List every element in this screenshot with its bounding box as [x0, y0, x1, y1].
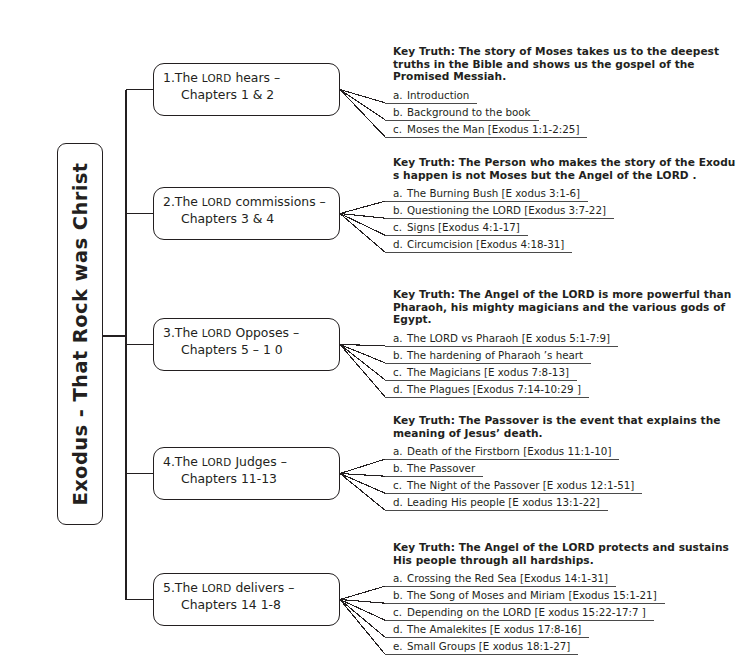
sub-item-text: The Song of Moses and Miriam [Exodus 15:… [407, 589, 657, 601]
sub-item-letter: b. [393, 106, 407, 118]
sub-item-text: Circumcision [Exodus 4:18-31] [407, 238, 564, 250]
fan-connector [340, 201, 385, 213]
sub-item[interactable]: b.Background to the book [393, 106, 739, 123]
section-node-1-line2: Chapters 1 & 2 [163, 87, 339, 104]
fan-connector [340, 345, 385, 380]
sub-item-letter: c. [393, 479, 407, 491]
sub-item-text: Small Groups [E xodus 18:1-27] [407, 640, 570, 652]
section-node-3-line1: 3.The LORD Opposes – [163, 325, 339, 342]
sub-item[interactable]: c.The Magicians [E xodus 7:8-13] [393, 366, 739, 383]
sub-item-text: Leading His people [E xodus 13:1-22] [407, 496, 600, 508]
sub-item-underline [385, 346, 618, 347]
sub-item[interactable]: a.The LORD vs Pharaoh [E xodus 5:1-7:9] [393, 332, 739, 349]
sub-item-underline [385, 235, 528, 236]
fan-connector [340, 474, 385, 511]
lord-smallcaps-3: LORD [202, 327, 232, 339]
sub-item[interactable]: c.Signs [Exodus 4:1-17] [393, 221, 739, 238]
section-number-1: 1. [163, 70, 175, 85]
sub-item[interactable]: d.Circumcision [Exodus 4:18-31] [393, 238, 739, 255]
sub-item-list-3: a.The LORD vs Pharaoh [E xodus 5:1-7:9]b… [393, 332, 739, 400]
fan-connector [340, 474, 385, 494]
sub-item[interactable]: c.Moses the Man [Exodus 1:1-2:25] [393, 123, 739, 140]
section-node-1[interactable]: 1.The LORD hears – Chapters 1 & 2 [153, 63, 340, 116]
sub-item-letter: a. [393, 187, 407, 199]
lord-smallcaps-2: LORD [202, 196, 232, 208]
sub-item[interactable]: a.Introduction [393, 89, 739, 106]
fan-connector [340, 474, 385, 477]
key-truth-2: Key Truth: The Person who makes the stor… [393, 156, 739, 181]
section-node-5-line1: 5.The LORD delivers – [163, 580, 339, 597]
sub-item-letter: d. [393, 238, 407, 250]
content-block-2: Key Truth: The Person who makes the stor… [393, 156, 739, 255]
sub-item-underline [385, 380, 577, 381]
sub-item-text: The Magicians [E xodus 7:8-13] [407, 366, 569, 378]
sub-item[interactable]: b.Questioning the LORD [Exodus 3:7-22] [393, 204, 739, 221]
sub-item[interactable]: b.The hardening of Pharaoh ’s heart [393, 349, 739, 366]
sub-item-underline [385, 654, 578, 655]
sub-item-list-2: a.The Burning Bush [E xodus 3:1-6]b.Ques… [393, 187, 739, 255]
sub-item-letter: e. [393, 640, 407, 652]
section-node-5[interactable]: 5.The LORD delivers – Chapters 14 1-8 [153, 573, 340, 626]
sub-item-letter: b. [393, 462, 407, 474]
sub-item-letter: c. [393, 366, 407, 378]
sub-item[interactable]: a.Crossing the Red Sea [Exodus 14:1-31] [393, 572, 739, 589]
fan-connector [340, 345, 385, 363]
section-node-3[interactable]: 3.The LORD Opposes – Chapters 5 – 1 0 [153, 318, 340, 371]
sub-item-underline [385, 459, 619, 460]
sub-item-letter: a. [393, 332, 407, 344]
section-node-5-line2: Chapters 14 1-8 [163, 597, 339, 614]
sub-item-text: Death of the Firstborn [Exodus 11:1-10] [407, 445, 611, 457]
fan-connector [340, 90, 385, 120]
section-node-3-line2: Chapters 5 – 1 0 [163, 342, 339, 359]
sub-item-list-4: a.Death of the Firstborn [Exodus 11:1-10… [393, 445, 739, 513]
section-title-pre-3: The [175, 325, 202, 340]
sub-item-underline [385, 103, 477, 104]
sub-item-letter: a. [393, 89, 407, 101]
section-title-pre-1: The [175, 70, 202, 85]
sub-item[interactable]: c.The Night of the Passover [E xodus 12:… [393, 479, 739, 496]
root-node-label: Exodus - That Rock was Christ [69, 162, 92, 505]
sub-item[interactable]: d.Leading His people [E xodus 13:1-22] [393, 496, 739, 513]
sub-item[interactable]: a.Death of the Firstborn [Exodus 11:1-10… [393, 445, 739, 462]
sub-item[interactable]: b.The Passover [393, 462, 739, 479]
fan-connector [340, 214, 385, 236]
sub-item-underline [385, 397, 589, 398]
sub-item[interactable]: d.The Plagues [Exodus 7:14-10:29 ] [393, 383, 739, 400]
section-node-2[interactable]: 2.The LORD commissions – Chapters 3 & 4 [153, 187, 340, 240]
sub-item-text: The Night of the Passover [E xodus 12:1-… [407, 479, 634, 491]
sub-item-underline [385, 252, 572, 253]
section-title-pre-4: The [175, 454, 202, 469]
section-node-4-line1: 4.The LORD Judges – [163, 454, 339, 471]
section-node-4[interactable]: 4.The LORD Judges – Chapters 11-13 [153, 447, 340, 500]
sub-item-text: The Amalekites [E xodus 17:8-16] [407, 623, 581, 635]
sub-item-underline [385, 493, 642, 494]
fan-connector [340, 345, 385, 397]
sub-item[interactable]: c.Depending on the LORD [E xodus 15:22-1… [393, 606, 739, 623]
section-node-2-line2: Chapters 3 & 4 [163, 211, 339, 228]
sub-item[interactable]: e.Small Groups [E xodus 18:1-27] [393, 640, 739, 657]
sub-item-text: The hardening of Pharaoh ’s heart [407, 349, 583, 361]
section-number-5: 5. [163, 580, 175, 595]
sub-item-underline [385, 120, 539, 121]
root-node[interactable]: Exodus - That Rock was Christ [57, 143, 103, 525]
fan-connector [340, 459, 385, 473]
sub-item-letter: c. [393, 221, 407, 233]
sub-item-underline [385, 137, 587, 138]
sub-item-underline [385, 218, 614, 219]
sub-item-text: Background to the book [407, 106, 531, 118]
fan-connector [340, 600, 385, 655]
sub-item-text: Signs [Exodus 4:1-17] [407, 221, 520, 233]
section-node-4-line2: Chapters 11-13 [163, 471, 339, 488]
sub-item-text: Depending on the LORD [E xodus 15:22-17:… [407, 606, 646, 618]
sub-item[interactable]: b.The Song of Moses and Miriam [Exodus 1… [393, 589, 739, 606]
sub-item-text: The Plagues [Exodus 7:14-10:29 ] [407, 383, 581, 395]
fan-connector [340, 90, 385, 103]
key-truth-3: Key Truth: The Angel of the LORD is more… [393, 288, 739, 326]
content-block-3: Key Truth: The Angel of the LORD is more… [393, 288, 739, 400]
sub-item[interactable]: d.The Amalekites [E xodus 17:8-16] [393, 623, 739, 640]
key-truth-1: Key Truth: The story of Moses takes us t… [393, 45, 739, 83]
sub-item-underline [385, 476, 483, 477]
sub-item[interactable]: a.The Burning Bush [E xodus 3:1-6] [393, 187, 739, 204]
section-title-pre-5: The [175, 580, 202, 595]
sub-item-underline [385, 363, 591, 364]
